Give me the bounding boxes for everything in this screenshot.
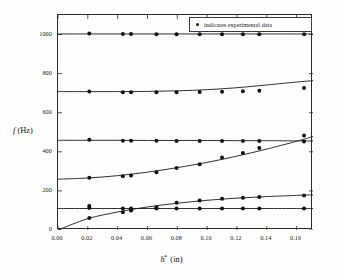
data-point — [175, 32, 179, 36]
data-point — [241, 89, 245, 93]
figure-container: f (Hz) h* (in) 02004006008001000 0.000.0… — [0, 0, 343, 279]
data-point — [220, 139, 224, 143]
legend-box: indicates experimental data — [189, 17, 312, 32]
data-point — [257, 89, 261, 93]
data-point — [154, 90, 158, 94]
data-point — [241, 32, 245, 36]
data-point — [257, 139, 261, 143]
y-tick-label: 600 — [23, 108, 52, 115]
data-point — [241, 196, 245, 200]
x-axis-label-units: (in) — [168, 255, 182, 264]
data-point — [154, 32, 158, 36]
data-point — [154, 205, 158, 209]
x-tick-label: 0.12 — [222, 234, 250, 241]
legend-text: indicates experimental data — [204, 22, 272, 28]
theory-curves — [58, 34, 313, 230]
data-point — [87, 90, 91, 94]
x-tick-label: 0.06 — [132, 234, 160, 241]
data-point — [175, 207, 179, 211]
data-point — [220, 207, 224, 211]
data-point — [220, 90, 224, 94]
x-tick-label: 0.04 — [103, 234, 131, 241]
data-point — [241, 139, 245, 143]
curve-mode-3-theory — [58, 137, 313, 180]
y-tick-label: 800 — [23, 69, 52, 76]
data-point — [198, 139, 202, 143]
x-axis-label: h* (in) — [0, 255, 343, 264]
curve-mode-4-theory — [58, 140, 313, 141]
data-point — [175, 139, 179, 143]
data-point — [257, 207, 261, 211]
data-point — [302, 139, 306, 143]
y-axis-label-units: (Hz) — [15, 126, 32, 135]
data-point — [302, 207, 306, 211]
data-point — [257, 195, 261, 199]
data-point — [121, 32, 125, 36]
y-tick-label: 200 — [23, 186, 52, 193]
data-point — [121, 207, 125, 211]
curve-mode-5-theory — [58, 81, 313, 92]
y-tick-label: 0 — [23, 225, 52, 232]
data-point — [302, 133, 306, 137]
x-tick-label: 0.02 — [73, 234, 101, 241]
legend-marker-icon — [196, 23, 199, 26]
plot-canvas — [58, 15, 313, 230]
data-point — [198, 32, 202, 36]
data-point — [121, 174, 125, 178]
y-tick-label: 1000 — [23, 30, 52, 37]
data-point — [220, 197, 224, 201]
data-point — [87, 204, 91, 208]
data-point — [129, 173, 133, 177]
data-point — [302, 32, 306, 36]
data-point — [121, 139, 125, 143]
plot-area — [57, 14, 312, 229]
data-point — [129, 32, 133, 36]
x-tick-label: 0.00 — [43, 234, 71, 241]
data-point — [257, 146, 261, 150]
data-point — [220, 155, 224, 159]
x-tick-label: 0.16 — [282, 234, 310, 241]
data-point — [241, 151, 245, 155]
y-tick-label: 400 — [23, 147, 52, 154]
data-point — [198, 207, 202, 211]
data-point — [198, 162, 202, 166]
data-point — [87, 32, 91, 36]
data-point — [121, 90, 125, 94]
data-point — [175, 90, 179, 94]
data-point — [302, 86, 306, 90]
curve-mode-1-theory — [58, 195, 313, 230]
data-point — [154, 139, 158, 143]
data-point — [129, 90, 133, 94]
y-axis-label: f (Hz) — [13, 126, 33, 135]
data-point — [121, 210, 125, 214]
data-point — [198, 198, 202, 202]
x-axis-label-superscript: * — [164, 253, 168, 261]
data-point — [175, 201, 179, 205]
data-point — [154, 170, 158, 174]
data-point — [175, 166, 179, 170]
data-point — [257, 32, 261, 36]
x-tick-label: 0.10 — [192, 234, 220, 241]
data-point — [87, 176, 91, 180]
data-point — [87, 138, 91, 142]
data-point — [87, 216, 91, 220]
axis-ticks — [58, 15, 313, 230]
data-point — [198, 90, 202, 94]
data-point — [129, 139, 133, 143]
data-point — [302, 194, 306, 198]
experimental-data-points — [87, 32, 306, 220]
data-point — [241, 207, 245, 211]
data-point — [220, 32, 224, 36]
x-tick-label: 0.08 — [162, 234, 190, 241]
x-tick-label: 0.14 — [252, 234, 280, 241]
data-point — [129, 208, 133, 212]
